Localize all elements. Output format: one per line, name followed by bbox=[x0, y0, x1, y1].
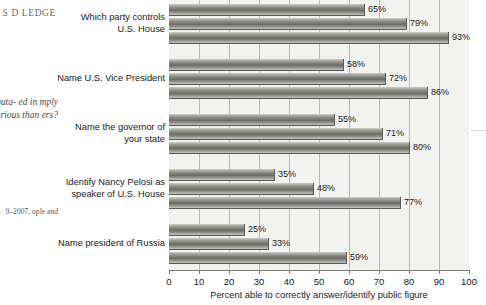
x-tick-label-90: 90 bbox=[424, 276, 454, 287]
x-tick-label-100: 100 bbox=[454, 276, 484, 287]
x-tick-label-70: 70 bbox=[364, 276, 394, 287]
category-label-line: speaker of U.S. House bbox=[71, 189, 165, 199]
bar[interactable] bbox=[169, 73, 386, 85]
bar-value-label: 55% bbox=[335, 114, 356, 125]
x-tick-90 bbox=[439, 270, 440, 274]
bar-value-label: 86% bbox=[428, 87, 449, 98]
category-label: Identify Nancy Pelosi asspeaker of U.S. … bbox=[45, 177, 165, 200]
category-label-line: Name the governor of bbox=[75, 122, 165, 132]
bar[interactable] bbox=[169, 114, 335, 126]
bar-value-label: 79% bbox=[407, 18, 428, 29]
category-label: Name U.S. Vice President bbox=[45, 73, 165, 85]
bar-value-label: 77% bbox=[401, 197, 422, 208]
category-label-line: Which party controls bbox=[81, 12, 165, 22]
category-label: Name the governor ofyour state bbox=[45, 122, 165, 145]
category-label-line: Identify Nancy Pelosi as bbox=[66, 177, 165, 187]
bar-value-label: 59% bbox=[347, 252, 368, 263]
bar[interactable] bbox=[169, 142, 410, 154]
x-tick-label-10: 10 bbox=[184, 276, 214, 287]
bar[interactable] bbox=[169, 238, 269, 250]
bar-value-label: 48% bbox=[314, 183, 335, 194]
x-tick-80 bbox=[409, 270, 410, 274]
x-tick-label-40: 40 bbox=[274, 276, 304, 287]
x-axis-title: Percent able to correctly answer/identif… bbox=[169, 290, 469, 300]
bar-value-label: 58% bbox=[344, 59, 365, 70]
bar[interactable] bbox=[169, 169, 275, 181]
page-rule bbox=[470, 130, 486, 131]
x-tick-30 bbox=[259, 270, 260, 274]
x-tick-label-0: 0 bbox=[154, 276, 184, 287]
x-tick-label-30: 30 bbox=[244, 276, 274, 287]
x-tick-label-20: 20 bbox=[214, 276, 244, 287]
category-axis-labels: Which party controlsU.S. HouseName U.S. … bbox=[44, 0, 165, 305]
bar-value-label: 65% bbox=[365, 4, 386, 15]
x-tick-50 bbox=[319, 270, 320, 274]
x-tick-70 bbox=[379, 270, 380, 274]
bar-chart: Which party controlsU.S. HouseName U.S. … bbox=[0, 0, 486, 305]
x-tick-0 bbox=[169, 270, 170, 274]
bar[interactable] bbox=[169, 252, 347, 264]
bar[interactable] bbox=[169, 224, 245, 236]
bar[interactable] bbox=[169, 197, 401, 209]
bar[interactable] bbox=[169, 59, 344, 71]
category-label: Name president of Russia bbox=[45, 238, 165, 250]
bar[interactable] bbox=[169, 18, 407, 30]
bar-value-label: 72% bbox=[386, 73, 407, 84]
x-tick-10 bbox=[199, 270, 200, 274]
x-tick-40 bbox=[289, 270, 290, 274]
x-tick-60 bbox=[349, 270, 350, 274]
x-tick-label-80: 80 bbox=[394, 276, 424, 287]
x-tick-label-50: 50 bbox=[304, 276, 334, 287]
bar-value-label: 80% bbox=[410, 142, 431, 153]
bar[interactable] bbox=[169, 4, 365, 16]
bar-value-label: 93% bbox=[449, 32, 470, 43]
bar-value-label: 71% bbox=[383, 128, 404, 139]
bar[interactable] bbox=[169, 183, 314, 195]
bar-value-label: 25% bbox=[245, 224, 266, 235]
category-label-line: Name U.S. Vice President bbox=[57, 73, 165, 83]
category-label-line: U.S. House bbox=[117, 24, 165, 34]
bar-value-label: 33% bbox=[269, 238, 290, 249]
x-tick-100 bbox=[469, 270, 470, 274]
category-label-line: Name president of Russia bbox=[58, 238, 165, 248]
category-label: Which party controlsU.S. House bbox=[45, 12, 165, 35]
bar[interactable] bbox=[169, 32, 449, 44]
bar[interactable] bbox=[169, 128, 383, 140]
category-label-line: your state bbox=[124, 134, 165, 144]
bar-value-label: 35% bbox=[275, 169, 296, 180]
x-tick-20 bbox=[229, 270, 230, 274]
bar[interactable] bbox=[169, 87, 428, 99]
x-tick-label-60: 60 bbox=[334, 276, 364, 287]
